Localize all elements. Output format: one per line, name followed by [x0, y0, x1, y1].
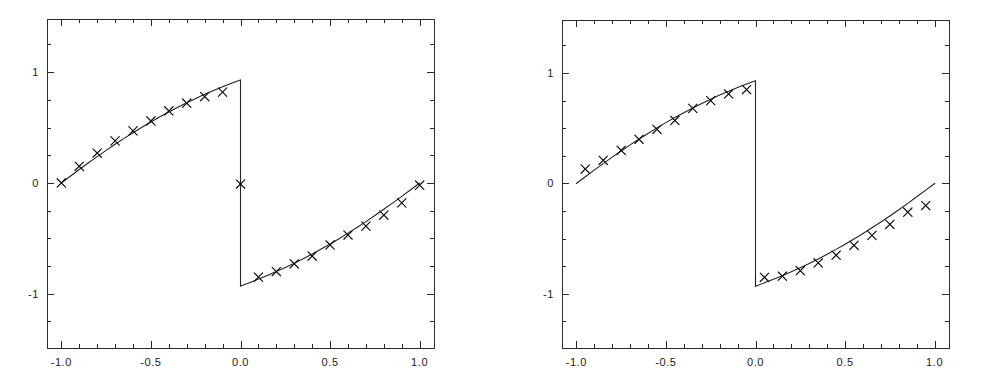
- curve-segment: [61, 80, 240, 183]
- right-panel-x-tick-labels: -1.0-0.50.00.51.0: [566, 356, 944, 368]
- y-tick-label: 0: [547, 177, 554, 189]
- data-point-marker: [814, 259, 822, 267]
- right-panel-y-tick-labels: -101: [543, 67, 554, 300]
- x-tick-label: 0.5: [322, 356, 339, 368]
- x-tick-label: 0.0: [747, 356, 764, 368]
- data-point-marker: [147, 117, 155, 125]
- data-point-marker: [886, 220, 894, 228]
- data-point-marker: [326, 241, 334, 249]
- left-chart-panel: -1.0-0.50.00.51.0-101: [0, 0, 494, 392]
- data-point-marker: [635, 135, 643, 143]
- curve-segment: [756, 183, 935, 286]
- right-chart-panel: -1.0-0.50.00.51.0-101: [494, 0, 988, 392]
- data-point-marker: [218, 88, 226, 96]
- figure-container: -1.0-0.50.00.51.0-101 -1.0-0.50.00.51.0-…: [0, 0, 989, 392]
- data-point-marker: [760, 273, 768, 281]
- x-tick-label: -0.5: [140, 356, 161, 368]
- data-point-marker: [832, 251, 840, 259]
- data-point-marker: [904, 208, 912, 216]
- data-point-marker: [380, 211, 388, 219]
- data-point-marker: [362, 222, 370, 230]
- left-panel-x-tick-labels: -1.0-0.50.00.51.0: [51, 356, 429, 368]
- y-tick-label: -1: [543, 288, 554, 300]
- x-tick-label: -0.5: [655, 356, 676, 368]
- exact-solution-curve: [576, 81, 934, 286]
- curve-segment: [241, 183, 420, 286]
- data-point-marker: [850, 241, 858, 249]
- y-tick-label: 1: [32, 66, 39, 78]
- data-point-marker: [272, 267, 280, 275]
- y-tick-label: -1: [28, 288, 39, 300]
- y-tick-label: 1: [547, 67, 554, 79]
- data-point-marker: [689, 104, 697, 112]
- data-point-marker: [254, 273, 262, 281]
- left-panel-svg: -1.0-0.50.00.51.0-101: [0, 0, 494, 392]
- data-point-marker: [868, 231, 876, 239]
- data-point-marker: [778, 272, 786, 280]
- curve-segment: [576, 81, 755, 184]
- data-point-marker: [200, 92, 208, 100]
- data-point-marker: [183, 99, 191, 107]
- x-tick-label: 1.0: [926, 356, 943, 368]
- x-tick-label: -1.0: [566, 356, 587, 368]
- x-tick-label: -1.0: [51, 356, 72, 368]
- exact-solution-curve: [61, 80, 419, 286]
- data-point-marker: [290, 260, 298, 268]
- data-point-marker: [742, 85, 750, 93]
- left-panel-y-tick-labels: -101: [28, 66, 39, 300]
- right-panel-svg: -1.0-0.50.00.51.0-101: [494, 0, 988, 392]
- x-tick-label: 0.0: [232, 356, 249, 368]
- y-tick-label: 0: [32, 177, 39, 189]
- data-point-marker: [922, 201, 930, 209]
- data-point-marker: [398, 199, 406, 207]
- x-tick-label: 1.0: [411, 356, 428, 368]
- x-tick-label: 0.5: [837, 356, 854, 368]
- data-point-marker: [617, 146, 625, 154]
- data-point-marker: [57, 179, 65, 187]
- data-point-marker: [581, 165, 589, 173]
